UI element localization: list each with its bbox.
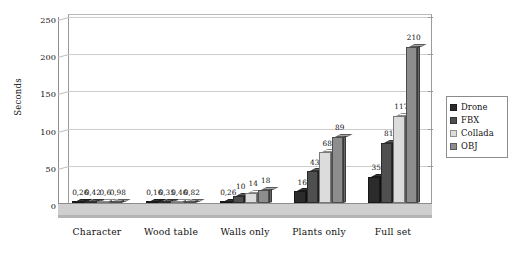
bar-value-label: 16 — [298, 178, 307, 187]
bars-layer: 0,260,420,60,980,160,350,460,820,2610141… — [58, 14, 432, 218]
bar-front-face — [319, 152, 331, 203]
bar-obj-wood-table — [184, 202, 196, 203]
bar-value-label: 35 — [372, 163, 381, 172]
bar-obj-character — [110, 202, 122, 203]
bar-group-character: 0,260,420,60,98 — [72, 14, 122, 203]
legend-swatch-icon — [450, 143, 457, 150]
bar-fbx-plants-only — [307, 171, 319, 203]
bar-fbx-full-set — [381, 143, 393, 203]
bar-value-label: 43 — [310, 158, 319, 167]
bar-collada-wood-table — [171, 202, 183, 203]
bar-value-label: 18 — [261, 176, 270, 185]
bar-group-wood-table: 0,160,350,460,82 — [146, 14, 196, 203]
y-axis-tick-50: 50 — [2, 164, 56, 174]
legend-item-fbx[interactable]: FBX — [450, 114, 503, 126]
bar-value-label: 0,42 — [85, 188, 101, 197]
legend-label: Drone — [461, 102, 488, 112]
x-axis-label-character: Character — [73, 226, 122, 237]
bar-value-label: 0,98 — [110, 188, 126, 197]
bar-drone-wood-table — [146, 202, 158, 203]
legend-label: OBJ — [461, 141, 478, 151]
bar-chart: Seconds 050100150200250 0,260,420,60,980… — [0, 0, 516, 254]
bar-drone-plants-only — [294, 191, 306, 203]
x-axis-label-walls-only: Walls only — [220, 226, 269, 237]
x-axis-label-wood-table: Wood table — [144, 226, 198, 237]
bar-front-face — [258, 190, 270, 203]
y-axis-tick-100: 100 — [2, 127, 56, 137]
legend-swatch-icon — [450, 104, 457, 111]
bar-drone-character — [72, 202, 84, 203]
bar-obj-walls-only — [258, 190, 270, 203]
bar-front-face — [245, 193, 257, 203]
legend-label: FBX — [461, 115, 479, 125]
bar-fbx-character — [85, 202, 97, 203]
y-axis-tick-150: 150 — [2, 89, 56, 99]
bar-obj-plants-only — [332, 137, 344, 203]
bar-side-face — [343, 136, 346, 203]
bar-front-face — [381, 143, 393, 203]
legend-swatch-icon — [450, 117, 457, 124]
plot-area: 0,260,420,60,980,160,350,460,820,2610141… — [58, 14, 432, 218]
bar-side-face — [269, 189, 272, 203]
bar-value-label: 81 — [384, 129, 393, 138]
bar-front-face — [332, 137, 344, 203]
y-axis-tick-250: 250 — [2, 15, 56, 25]
bar-obj-full-set — [406, 47, 418, 203]
chart-legend: DroneFBXColladaOBJ — [446, 96, 508, 158]
bar-value-label: 0,82 — [184, 188, 200, 197]
bar-value-label: 210 — [407, 33, 421, 42]
bar-drone-walls-only — [220, 202, 232, 203]
legend-item-obj[interactable]: OBJ — [450, 140, 503, 152]
x-axis-category-labels: CharacterWood tableWalls onlyPlants only… — [58, 226, 432, 244]
bar-front-face — [233, 196, 245, 203]
x-axis-label-full-set: Full set — [375, 226, 412, 237]
bar-side-face — [195, 200, 198, 203]
bar-side-face — [121, 200, 124, 203]
bar-front-face — [294, 191, 306, 203]
bar-value-label: 10 — [236, 182, 245, 191]
bar-front-face — [393, 116, 405, 203]
y-axis-tick-200: 200 — [2, 52, 56, 62]
bar-fbx-wood-table — [159, 202, 171, 203]
bar-drone-full-set — [368, 177, 380, 203]
bar-collada-full-set — [393, 116, 405, 203]
bar-group-walls-only: 0,26101418 — [220, 14, 270, 203]
legend-item-collada[interactable]: Collada — [450, 127, 503, 139]
bar-side-face — [417, 46, 420, 203]
bar-value-label: 68 — [323, 139, 332, 148]
legend-swatch-icon — [450, 130, 457, 137]
y-axis-tick-labels: 050100150200250 — [0, 0, 56, 254]
bar-value-label: 89 — [335, 123, 344, 132]
legend-label: Collada — [461, 128, 494, 138]
y-axis-tick-0: 0 — [2, 201, 56, 211]
bar-front-face — [406, 47, 418, 203]
bar-value-label: 14 — [249, 179, 258, 188]
bar-group-full-set: 3581117210 — [368, 14, 418, 203]
bar-collada-walls-only — [245, 193, 257, 203]
x-axis-label-plants-only: Plants only — [292, 226, 346, 237]
bar-group-plants-only: 16436889 — [294, 14, 344, 203]
legend-item-drone[interactable]: Drone — [450, 101, 503, 113]
bar-fbx-walls-only — [233, 196, 245, 203]
bar-collada-plants-only — [319, 152, 331, 203]
bar-collada-character — [97, 202, 109, 203]
bar-front-face — [368, 177, 380, 203]
bar-front-face — [307, 171, 319, 203]
